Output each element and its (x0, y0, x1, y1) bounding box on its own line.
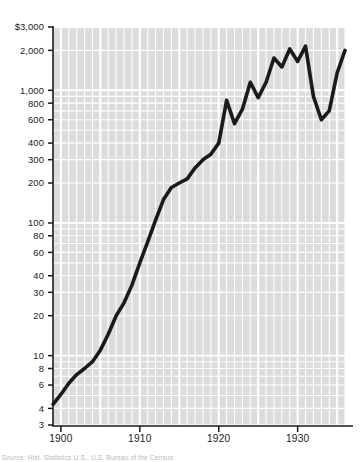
y-tick-label: 300 (28, 154, 44, 165)
x-tick-label: 1910 (128, 433, 152, 444)
y-tick-label: 3 (39, 419, 44, 430)
y-tick-label: 600 (28, 114, 44, 125)
y-tick-label: $3,000 (15, 21, 44, 32)
y-tick-label: 6 (39, 379, 44, 390)
y-tick-label: 20 (33, 310, 44, 321)
x-tick-label: 1930 (286, 433, 310, 444)
plot-background (53, 27, 345, 425)
y-tick-label: 1,000 (20, 85, 44, 96)
chart-root: $3,0002,0001,000800600400300200100806040… (0, 0, 362, 462)
y-tick-label: 10 (33, 350, 44, 361)
y-tick-label: 2,000 (20, 45, 44, 56)
y-tick-label: 8 (39, 363, 44, 374)
y-tick-label: 100 (28, 217, 44, 228)
y-tick-label: 400 (28, 137, 44, 148)
y-axis-ticks: $3,0002,0001,000800600400300200100806040… (15, 21, 53, 430)
y-tick-label: 30 (33, 287, 44, 298)
y-tick-label: 800 (28, 98, 44, 109)
x-axis-ticks: 1900191019201930 (49, 426, 309, 444)
x-tick-label: 1900 (49, 433, 73, 444)
y-tick-label: 200 (28, 177, 44, 188)
y-tick-label: 80 (33, 230, 44, 241)
y-tick-label: 40 (33, 270, 44, 281)
x-tick-label: 1920 (207, 433, 231, 444)
stock-index-log-line-chart: $3,0002,0001,000800600400300200100806040… (0, 0, 362, 462)
y-tick-label: 60 (33, 247, 44, 258)
y-tick-label: 4 (39, 403, 44, 414)
source-caption: Source: Hist. Statistics U.S., U.S. Bure… (2, 454, 174, 461)
